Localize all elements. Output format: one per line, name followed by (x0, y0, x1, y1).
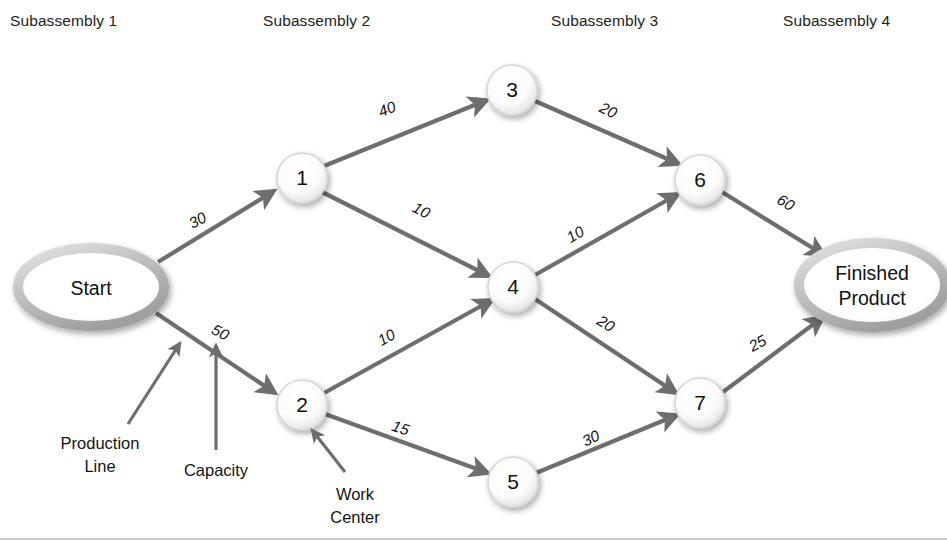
edge-4-to-6 (535, 194, 678, 275)
production-line-label-line2: Line (84, 457, 115, 475)
edge-label-1-4: 10 (410, 199, 433, 222)
node-2-label: 2 (296, 393, 308, 416)
work-center-label-line1: Work (336, 485, 375, 503)
annotation-layer: Production Line Capacity Work Center (61, 343, 381, 526)
node-6-label: 6 (694, 168, 706, 191)
work-center-node-2[interactable]: 2 (277, 380, 327, 430)
annotation-production-line: Production Line (61, 343, 180, 475)
column-headers: Subassembly 1 Subassembly 2 Subassembly … (10, 12, 891, 29)
capacity-label: Capacity (184, 461, 249, 479)
edge-label-1-3: 40 (376, 98, 399, 120)
start-node-label: Start (70, 277, 112, 299)
annotation-work-center: Work Center (312, 430, 380, 526)
network-diagram-canvas: Subassembly 1 Subassembly 2 Subassembly … (0, 0, 947, 541)
annotation-capacity: Capacity (184, 345, 249, 479)
production-line-leader (128, 343, 180, 424)
node-4-label: 4 (507, 275, 519, 298)
work-center-node-1[interactable]: 1 (277, 153, 327, 203)
finished-product-node-shape (799, 243, 945, 327)
edge-1-to-3 (324, 100, 487, 166)
edge-label-4-7: 20 (593, 311, 618, 335)
node-3-label: 3 (506, 78, 518, 101)
edge-label-2-5: 15 (390, 417, 412, 439)
column-header-subassembly-2: Subassembly 2 (263, 12, 370, 29)
edge-1-to-4 (322, 192, 489, 276)
edge-7-to-finish (723, 317, 823, 392)
edge-label-4-6: 10 (564, 222, 588, 246)
edge-2-to-4 (324, 300, 492, 393)
work-center-label-line2: Center (330, 508, 380, 526)
edge-label-6-finish: 60 (774, 191, 798, 215)
column-header-subassembly-4: Subassembly 4 (783, 12, 891, 29)
work-center-node-6[interactable]: 6 (675, 155, 725, 205)
edge-5-to-7 (536, 415, 677, 473)
production-line-label-line1: Production (61, 434, 140, 452)
node-1-label: 1 (296, 166, 308, 189)
edge-label-2-4: 10 (375, 325, 399, 348)
edge-6-to-finish (722, 192, 824, 255)
column-header-subassembly-1: Subassembly 1 (10, 12, 117, 29)
work-center-node-3[interactable]: 3 (487, 65, 537, 115)
work-center-node-7[interactable]: 7 (675, 378, 725, 428)
node-5-label: 5 (507, 470, 519, 493)
work-center-node-4[interactable]: 4 (488, 262, 538, 312)
diagram-svg: Subassembly 1 Subassembly 2 Subassembly … (0, 0, 947, 541)
work-center-leader (312, 430, 345, 472)
edge-label-start-2: 50 (209, 321, 232, 344)
finished-product-node[interactable]: Finished Product (799, 243, 945, 327)
work-center-node-5[interactable]: 5 (488, 457, 538, 507)
edge-label-start-1: 30 (186, 208, 210, 231)
edge-label-3-6: 20 (596, 98, 620, 121)
start-node[interactable]: Start (18, 248, 164, 326)
finished-product-label-line2: Product (838, 287, 906, 309)
column-header-subassembly-3: Subassembly 3 (551, 12, 658, 29)
finished-product-label-line1: Finished (835, 262, 909, 284)
node-7-label: 7 (694, 391, 706, 414)
edge-start-to-1 (158, 191, 274, 262)
node-layer: 1 2 3 4 5 6 7 (277, 65, 725, 507)
edge-label-7-finish: 25 (745, 331, 769, 355)
